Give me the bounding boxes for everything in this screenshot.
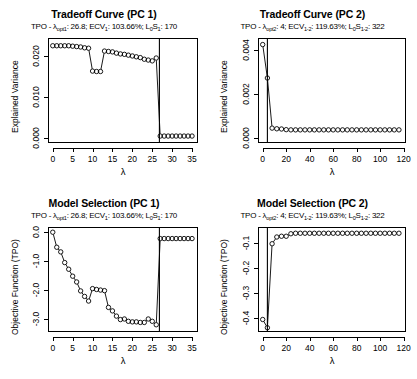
x-tick-mark [263, 148, 264, 152]
data-point [114, 314, 118, 318]
x-tick-label: 80 [352, 343, 361, 353]
x-tick-mark [112, 337, 113, 341]
x-tick-mark [93, 337, 94, 341]
x-tick-label: 0 [50, 343, 55, 353]
x-tick-mark [286, 337, 287, 341]
y-tick-label: -0.4 [241, 311, 251, 326]
y-tick-label: 0.002 [241, 83, 251, 104]
x-tick-mark [286, 148, 287, 152]
y-tick-mark [254, 50, 258, 51]
plot-series-tradeoff-pc2 [258, 38, 406, 143]
y-tick-label: 0.004 [241, 39, 251, 60]
y-tick-mark [254, 293, 258, 294]
data-point [270, 126, 274, 130]
data-point [303, 128, 307, 132]
data-point [354, 231, 358, 235]
x-tick-label: 25 [148, 343, 157, 353]
panel-title: Model Selection (PC 2) [208, 197, 417, 209]
data-point [154, 323, 158, 327]
y-tick-mark [44, 319, 48, 320]
data-point [298, 128, 302, 132]
y-tick-label: -2.0 [31, 283, 41, 298]
panel-subtitle: TPO - λopt2: 4; ECV1-2: 119.63%; L0S1-2:… [208, 211, 417, 220]
x-tick-label: 100 [373, 154, 387, 164]
series-segment [74, 278, 75, 280]
plot-area-modelsel-pc1 [48, 227, 198, 332]
y-tick-mark [254, 268, 258, 269]
data-point [317, 128, 321, 132]
data-point [336, 231, 340, 235]
y-tick-label: -1.0 [31, 254, 41, 269]
data-point [331, 128, 335, 132]
figure-canvas: Tradeoff Curve (PC 1) TPO - λopt1: 26.8;… [0, 0, 417, 379]
x-tick-label: 100 [373, 343, 387, 353]
series-segment [78, 284, 80, 289]
data-point [397, 231, 401, 235]
panel-tradeoff-pc1: Tradeoff Curve (PC 1) TPO - λopt1: 26.8;… [0, 0, 208, 190]
series-segment [66, 265, 68, 268]
y-tick-mark [254, 138, 258, 139]
y-tick-mark [44, 290, 48, 291]
data-point [312, 128, 316, 132]
y-tick-label: 0.020 [31, 46, 41, 67]
y-axis-label: Objective Function (TPO) [219, 239, 229, 335]
y-tick-mark [44, 138, 48, 139]
data-point [279, 234, 283, 238]
y-tick-label: 0.0 [31, 226, 41, 238]
data-point [373, 231, 377, 235]
x-tick-label: 30 [167, 343, 176, 353]
x-tick-mark [310, 148, 311, 152]
x-tick-label: 10 [88, 154, 97, 164]
data-point [336, 128, 340, 132]
data-point [150, 319, 154, 323]
data-point [350, 231, 354, 235]
x-tick-mark [132, 148, 133, 152]
data-point [66, 267, 70, 271]
y-tick-mark [44, 56, 48, 57]
data-point [312, 231, 316, 235]
data-point [378, 231, 382, 235]
x-tick-label: 10 [88, 343, 97, 353]
panel-title: Tradeoff Curve (PC 2) [208, 8, 417, 20]
data-point [340, 128, 344, 132]
data-point [331, 231, 335, 235]
x-tick-mark [357, 148, 358, 152]
plot-area-tradeoff-pc1 [48, 38, 198, 143]
data-point [275, 127, 279, 131]
data-point [289, 232, 293, 236]
x-tick-mark [53, 337, 54, 341]
x-tick-label: 120 [397, 154, 411, 164]
y-axis-label: Objective Function (TPO) [10, 239, 20, 335]
data-point [345, 128, 349, 132]
x-tick-label: 40 [305, 343, 314, 353]
data-point [322, 231, 326, 235]
data-point [74, 280, 78, 284]
data-point [106, 305, 110, 309]
x-tick-label: 40 [305, 154, 314, 164]
data-point [350, 128, 354, 132]
series-segment [264, 321, 266, 325]
x-tick-mark [53, 148, 54, 152]
plot-series-tradeoff-pc1 [48, 38, 198, 143]
x-tick-mark [73, 337, 74, 341]
x-tick-mark [93, 148, 94, 152]
series-segment [101, 53, 104, 69]
panel-tradeoff-pc2: Tradeoff Curve (PC 2) TPO - λopt2: 4; EC… [208, 0, 417, 190]
data-point [354, 128, 358, 132]
panel-modelsel-pc2: Model Selection (PC 2) TPO - λopt2: 4; E… [208, 189, 417, 379]
y-tick-mark [254, 94, 258, 95]
data-point [70, 274, 74, 278]
data-point [284, 234, 288, 238]
x-tick-mark [380, 148, 381, 152]
data-point [78, 289, 82, 293]
data-point [317, 231, 321, 235]
data-point [369, 231, 373, 235]
series-segment [268, 246, 272, 325]
panel-subtitle: TPO - λopt2: 4; ECV1-2: 119.63%; L0S1-2:… [208, 22, 417, 31]
x-tick-label: 20 [128, 154, 137, 164]
panel-title: Model Selection (PC 1) [0, 197, 208, 209]
data-point [284, 127, 288, 131]
data-point [55, 245, 59, 249]
x-tick-label: 20 [128, 343, 137, 353]
x-tick-mark [112, 148, 113, 152]
